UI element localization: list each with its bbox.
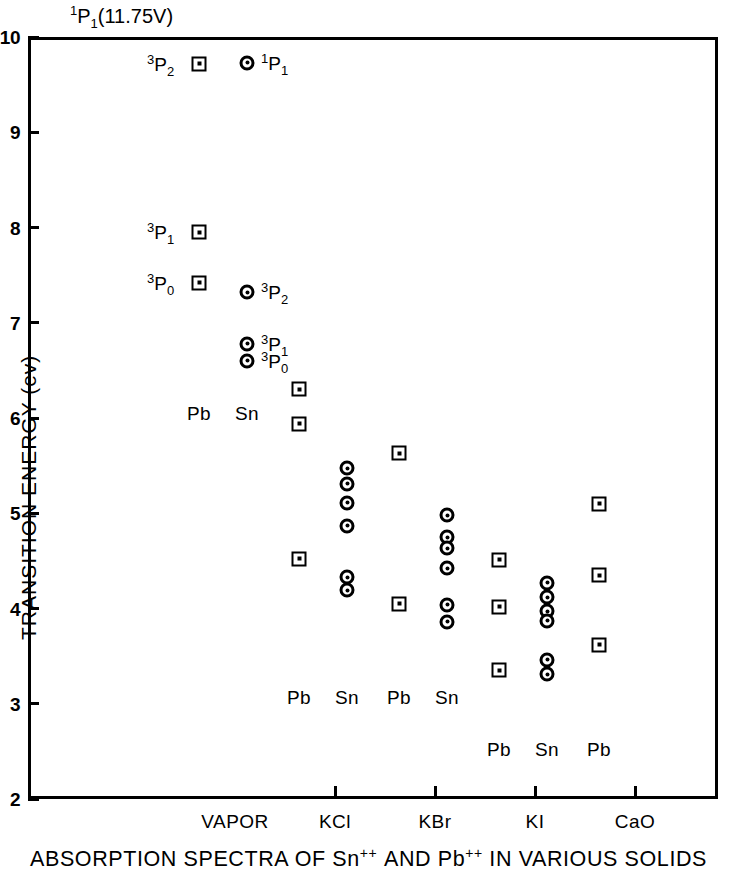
y-axis-tick [28,798,39,801]
term-symbol-sn: 1P1 [261,52,288,77]
data-point-sn [240,353,255,368]
data-point-sn [440,508,455,523]
x-axis-tick [334,786,337,799]
plot-frame [28,37,718,799]
y-axis-tick [28,512,39,515]
data-point-sn [540,652,555,667]
data-point-pb [592,637,607,652]
top-annotation-label: 1P1(11.75V) [70,4,173,30]
term-subscript: 1 [167,232,174,247]
data-point-sn [540,667,555,682]
data-point-pb [492,663,507,678]
data-point-pb [192,225,207,240]
y-axis-tick [28,417,39,420]
data-point-pb [492,599,507,614]
x-axis-tick-label: CaO [615,812,656,831]
x-axis-tick-label: KI [526,812,545,831]
y-axis-tick [28,607,39,610]
data-point-pb [492,552,507,567]
data-point-pb [292,551,307,566]
term-base: P [268,351,281,372]
term-base: P [154,273,167,294]
y-axis-tick-label: 7 [0,314,20,333]
figure-caption: ABSORPTION SPECTRA OF Sn++ AND Pb++ IN V… [30,846,707,871]
term-subscript: 2 [167,64,174,79]
y-axis-tick [28,702,39,705]
term-subscript: 2 [281,292,288,307]
data-point-pb [192,56,207,71]
caption-part-3: IN VARIOUS SOLIDS [489,847,707,871]
term-symbol-pb: 3P1 [147,221,174,246]
y-axis-tick-label: 5 [0,504,20,523]
figure-absorption-spectra: 1P1(11.75V) TRANSITION ENERGY (ev) 23456… [0,0,740,875]
data-point-pb [292,382,307,397]
term-symbol-pb: 3P0 [147,272,174,297]
series-label-sn: Sn [435,688,459,707]
series-label-sn: Sn [335,688,359,707]
y-axis-tick-label: 10 [0,28,20,47]
caption-part-1: ABSORPTION SPECTRA OF Sn [30,847,360,871]
data-point-sn [540,575,555,590]
y-axis-tick-label: 9 [0,123,20,142]
caption-superscript-sn: ++ [360,845,378,861]
series-label-pb: Pb [387,688,411,707]
y-axis-tick [28,36,39,39]
term-symbol-sn: 3P2 [261,281,288,306]
data-point-sn [440,597,455,612]
term-symbol-pb: 3P2 [147,53,174,78]
series-label-pb: Pb [287,688,311,707]
data-point-sn [540,613,555,628]
y-axis-tick-label: 2 [0,790,20,809]
series-label-pb: Pb [487,740,511,759]
top-annotation-paren: (11.75V) [98,5,173,27]
y-axis-tick-label: 4 [0,600,20,619]
data-point-pb [192,275,207,290]
data-point-sn [340,495,355,510]
data-point-sn [440,541,455,556]
data-point-sn [340,518,355,533]
series-label-sn: Sn [235,404,259,423]
x-axis-tick [434,786,437,799]
x-axis-tick [534,786,537,799]
y-axis-tick [28,131,39,134]
y-axis-tick [28,226,39,229]
x-axis-tick-label: KCl [319,812,351,831]
y-axis-tick-label: 3 [0,695,20,714]
y-axis-tick-label: 8 [0,219,20,238]
data-point-sn [340,476,355,491]
x-axis-tick-label: VAPOR [201,812,269,831]
data-point-pb [292,416,307,431]
data-point-sn [440,614,455,629]
term-subscript: 0 [281,361,288,376]
data-point-pb [592,568,607,583]
caption-part-2: AND Pb [384,847,465,871]
data-point-sn [340,461,355,476]
series-label-pb: Pb [187,404,211,423]
term-base: P [268,53,281,74]
data-point-sn [240,55,255,70]
series-label-sn: Sn [535,740,559,759]
term-subscript: 0 [167,283,174,298]
data-point-sn [240,336,255,351]
term-base: P [154,54,167,75]
data-point-sn [440,561,455,576]
y-axis-tick [28,321,39,324]
term-base: P [268,283,281,304]
top-annotation-base: P [77,5,90,27]
term-symbol-sn: 3P0 [261,350,288,375]
y-axis-tick-label: 6 [0,409,20,428]
data-point-sn [540,590,555,605]
data-point-pb [392,446,407,461]
series-label-pb: Pb [587,740,611,759]
top-annotation-subscript: 1 [91,16,98,31]
data-point-sn [240,285,255,300]
term-base: P [154,223,167,244]
term-subscript: 1 [281,63,288,78]
x-axis-tick-label: KBr [418,812,451,831]
data-point-pb [392,596,407,611]
data-point-pb [592,496,607,511]
x-axis-tick [634,786,637,799]
caption-superscript-pb: ++ [465,845,483,861]
data-point-sn [340,583,355,598]
